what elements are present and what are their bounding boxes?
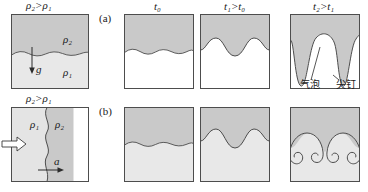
panel-a-upper-density-label: ρ₂ [63,33,72,45]
time-label-t0: t₀ [154,0,161,12]
panel-b-t2 [291,108,360,182]
panel-b-t0-light-fluid [125,142,194,182]
panel-b-t0 [125,108,194,182]
gravity-label: g [36,63,42,75]
acceleration-label: a [54,155,60,167]
time-label-t2: t₂>t₁ [313,0,334,12]
panel-a-t0 [125,15,194,89]
row-label-a: (a) [99,12,111,24]
bubble-annotation: 气泡 [300,76,320,91]
panel-b-right-density-label: ρ₂ [55,118,64,130]
panel-a-t1 [201,15,270,89]
panel-b-left-density-label: ρ₁ [30,118,39,130]
panel-a-setup [12,15,89,89]
density-condition-bottom: ρ₂>ρ₁ [26,92,52,104]
panel-a-lower-density-label: ρ₁ [63,66,72,78]
row-label-b: (b) [99,105,112,117]
panel-a-setup-light-fluid [12,52,89,89]
density-condition-top: ρ₂>ρ₁ [26,0,52,11]
panel-b-t1 [201,108,270,182]
panel-a-t0-light-fluid [125,49,194,88]
panel-b-setup [2,108,89,182]
spike-annotation: 尖钉 [336,76,356,91]
time-label-t1: t₁>t₀ [224,0,245,12]
